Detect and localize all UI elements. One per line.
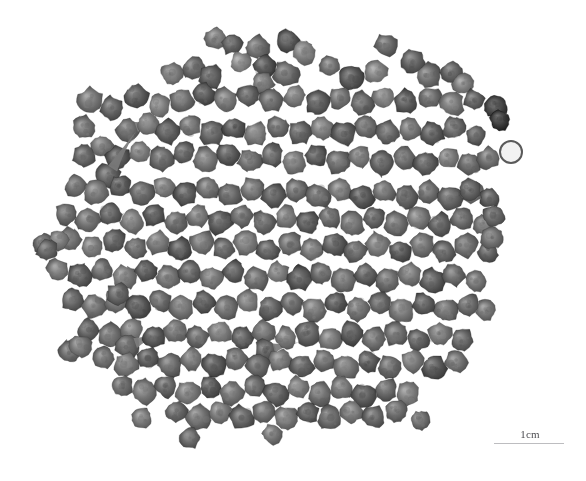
scale-bar-line: [494, 443, 564, 444]
scale-bar-label: 1cm: [494, 428, 566, 441]
scale-bar: 1cm: [494, 428, 566, 444]
seed-scan-figure: 1cm: [0, 0, 586, 481]
seed-sample-image: [0, 0, 586, 481]
